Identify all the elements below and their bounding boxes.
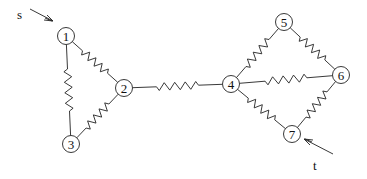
node-7: 7 [284, 126, 301, 143]
node-label: 7 [289, 127, 296, 142]
node-label: 4 [228, 77, 235, 92]
node-label: 2 [121, 81, 128, 96]
resistor-4-5 [237, 29, 279, 78]
resistor-2-3 [77, 94, 118, 138]
resistor-6-7 [297, 82, 335, 128]
resistor-1-2 [72, 42, 117, 83]
sink-arrow-icon [304, 139, 333, 154]
sink-label: t [313, 158, 317, 173]
resistor-network-diagram: 1234567 s t [0, 0, 367, 179]
resistor-1-3 [64, 45, 73, 136]
edges [64, 28, 336, 138]
resistor-4-6 [240, 74, 333, 85]
resistor-4-7 [238, 89, 286, 128]
sink-indicator: t [304, 139, 333, 173]
node-5: 5 [276, 14, 293, 31]
node-3: 3 [63, 136, 80, 153]
node-6: 6 [333, 67, 350, 84]
node-label: 3 [68, 137, 75, 152]
source-label: s [17, 7, 22, 22]
source-indicator: s [17, 7, 53, 22]
node-label: 1 [63, 29, 70, 44]
resistor-2-4 [133, 82, 223, 91]
node-2: 2 [116, 80, 133, 97]
node-4: 4 [223, 76, 240, 93]
resistor-5-6 [290, 28, 335, 69]
node-label: 5 [281, 15, 288, 30]
node-label: 6 [338, 68, 345, 83]
nodes: 1234567 [58, 14, 350, 153]
node-1: 1 [58, 28, 75, 45]
source-arrow-icon [30, 9, 53, 21]
